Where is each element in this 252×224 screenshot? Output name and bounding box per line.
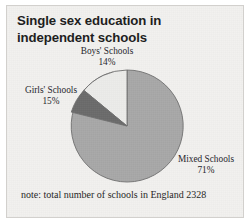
pie-label-mixed-schools: Mixed Schools 71% bbox=[167, 154, 244, 176]
pie-label-mixed-percent: 71% bbox=[167, 165, 244, 176]
pie-label-girls-percent: 15% bbox=[9, 96, 93, 107]
pie-label-mixed-name: Mixed Schools bbox=[178, 154, 234, 164]
pie-label-girls-schools: Girls' Schools 15% bbox=[9, 85, 93, 107]
pie-chart: Boys' Schools 14% Girls' Schools 15% Mix… bbox=[7, 6, 244, 218]
pie-label-girls-name: Girls' Schools bbox=[25, 85, 77, 95]
chart-note: note: total number of schools in England… bbox=[21, 189, 235, 200]
chart-figure: Single sex education in independent scho… bbox=[6, 5, 244, 218]
pie-label-boys-name: Boys' Schools bbox=[81, 46, 134, 56]
pie-chart-svg bbox=[7, 6, 244, 218]
pie-label-boys-schools: Boys' Schools 14% bbox=[55, 46, 159, 68]
pie-label-boys-percent: 14% bbox=[55, 57, 159, 68]
